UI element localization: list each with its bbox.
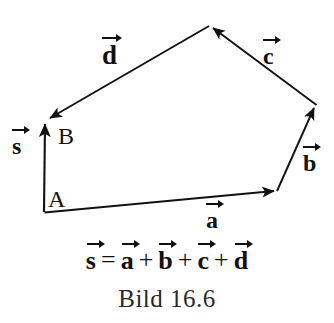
equation-operator-plus-3: + [214, 247, 229, 274]
equation-term-s: s [86, 240, 96, 274]
vector-label-b: b [303, 143, 316, 175]
vector-arrow-accent-b [303, 143, 316, 150]
vector-line-d [50, 26, 209, 118]
equation-term-a: a [121, 240, 134, 274]
equation-operator-plus-2: + [178, 247, 193, 274]
equation-operator-plus-1: + [139, 247, 154, 274]
figure-caption: Bild 16.6 [0, 285, 334, 313]
equation-term-d: d [234, 240, 248, 274]
vector-arrow-accent-a [206, 200, 218, 207]
point-label-b: B [58, 124, 74, 148]
point-label-a: A [48, 187, 65, 211]
vector-arrow-accent-c [263, 36, 274, 43]
vector-line-s [44, 124, 45, 212]
vector-arrow-accent-eq-s [86, 240, 96, 248]
vector-arrow-accent-eq-a [121, 240, 134, 248]
equation-term-b: b [158, 240, 172, 274]
vector-label-c: c [263, 36, 274, 68]
vector-arrow-accent-eq-d [234, 240, 248, 248]
vector-addition-figure: s a b c d B A s = a + b + [0, 0, 334, 323]
vector-arrow-accent-d [102, 34, 117, 41]
equation-operator-equals: = [101, 247, 116, 274]
vector-arrow-accent-eq-c [197, 240, 209, 248]
vector-line-a [45, 191, 275, 213]
vector-arrow-accent-s [12, 126, 21, 133]
vector-label-d: d [102, 34, 117, 69]
equation-term-c: c [197, 240, 209, 274]
vector-sum-equation: s = a + b + c + d [0, 232, 334, 274]
vector-label-a: a [206, 200, 218, 232]
vector-label-s: s [12, 126, 21, 158]
vector-arrow-accent-eq-b [158, 240, 172, 248]
